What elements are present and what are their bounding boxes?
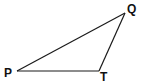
- edge-tq: [99, 13, 125, 71]
- triangle-diagram: P T Q: [0, 0, 141, 84]
- edge-qp: [17, 13, 125, 71]
- vertex-label-t: T: [100, 70, 108, 84]
- vertex-label-q: Q: [127, 2, 136, 16]
- vertex-label-p: P: [4, 66, 12, 80]
